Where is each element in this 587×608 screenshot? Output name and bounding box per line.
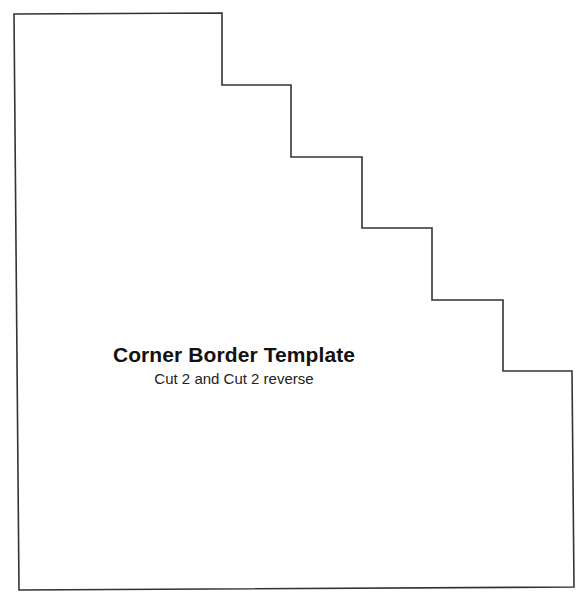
template-title: Corner Border Template (0, 343, 468, 367)
template-subtitle: Cut 2 and Cut 2 reverse (0, 370, 468, 387)
template-outline (0, 0, 587, 608)
corner-border-shape (14, 13, 574, 590)
